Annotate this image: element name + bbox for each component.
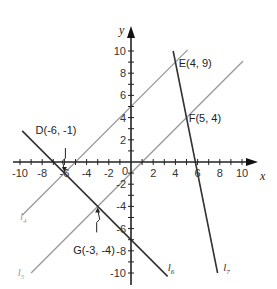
y-axis-label: y xyxy=(118,23,125,37)
y-tick-label: 4 xyxy=(120,112,126,124)
y-tick-label: 6 xyxy=(120,89,126,101)
x-tick-label: 4 xyxy=(172,167,178,179)
line-label-l7: l7 xyxy=(223,261,230,276)
point-label-G: G(-3, -4) xyxy=(73,244,115,256)
point-label-F: F(5, 4) xyxy=(189,112,221,124)
y-tick-label: -10 xyxy=(110,267,126,279)
pointer-G xyxy=(97,209,100,232)
x-tick-label: 6 xyxy=(195,167,201,179)
y-tick-label: 10 xyxy=(114,45,126,57)
x-tick-label: -2 xyxy=(104,167,114,179)
line-label-l6: l6 xyxy=(168,261,175,276)
y-tick-label: -4 xyxy=(116,200,126,212)
point-label-D: D(-6, -1) xyxy=(36,124,77,136)
x-axis-label: x xyxy=(259,169,266,183)
x-tick-label: 10 xyxy=(236,167,248,179)
x-axis-arrow xyxy=(246,158,258,166)
line-label-l5: l5 xyxy=(18,266,25,281)
x-tick-label: -4 xyxy=(82,167,92,179)
x-tick-label: 2 xyxy=(150,167,156,179)
y-tick-label: -6 xyxy=(116,223,126,235)
coordinate-plane: x y 0 -10-8-6-4-2246810-10-8-6-4-2246810… xyxy=(0,0,277,289)
y-axis-arrow xyxy=(127,26,135,38)
point-label-E: E(4, 9) xyxy=(179,57,212,69)
axes: x y 0 xyxy=(13,23,266,285)
origin-label: 0 xyxy=(122,165,128,177)
y-tick-label: 2 xyxy=(120,134,126,146)
y-tick-label: -8 xyxy=(116,245,126,257)
y-tick-label: 8 xyxy=(120,67,126,79)
y-tick-label: -2 xyxy=(116,178,126,190)
x-tick-label: -10 xyxy=(12,167,28,179)
x-tick-label: -8 xyxy=(37,167,47,179)
x-tick-label: 8 xyxy=(217,167,223,179)
